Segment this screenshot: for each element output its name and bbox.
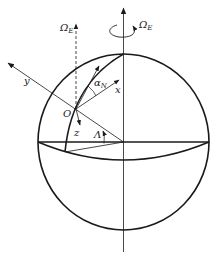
rotation-arrow-icon: [110, 25, 135, 37]
equator-radius: [65, 142, 124, 152]
latitude-label: Λ: [93, 129, 101, 140]
origin-label: O: [63, 108, 71, 119]
z-axis-label: z: [73, 127, 80, 138]
alpha-n-label: αN: [94, 77, 108, 90]
omega-e-axis-label: ΩE: [138, 19, 152, 32]
omega-e-local-label: ΩE: [59, 22, 73, 35]
y-axis-label: y: [23, 75, 30, 86]
x-axis-label: x: [115, 84, 121, 95]
earth-frame-diagram: ΩE ΩE y x O z αN Λ: [0, 0, 215, 258]
